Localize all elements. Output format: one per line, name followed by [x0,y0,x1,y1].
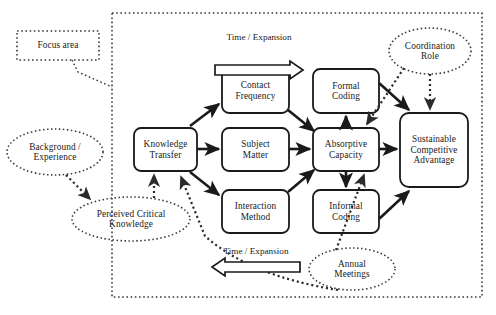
time-expansion-arrow-bottom [212,258,300,276]
ellipse-annual-meetings [309,248,395,290]
dotted-arrow-background-to-perceived-knowledge [66,175,90,199]
box-sustainable-competitive-advantage [400,113,468,187]
diagram-vector-layer [0,0,496,315]
arrow-informal-coding-to-sca [379,191,409,219]
box-absorptive-capacity [313,128,379,171]
box-knowledge-transfer [134,128,197,171]
time-expansion-label-top: Time / Expansion [209,32,309,42]
box-interaction-method [222,190,289,233]
dotted-arrow-annual-meetings-to-absorptive-capacity [336,175,364,250]
dotted-arrow-coordination-role-to-absorptive-capacity [367,68,404,124]
arrow-interaction-method-to-absorptive-capacity [288,170,314,192]
box-informal-coding [313,190,379,233]
ellipse-coordination-role [389,28,471,74]
time-expansion-label-bottom: Time / Expansion [206,246,306,256]
time-expansion-arrow-top [215,61,303,79]
arrow-kt-to-interaction-method [190,172,219,195]
arrow-kt-to-contact-frequency [190,104,219,126]
ellipse-perceived-critical-knowledge [72,197,190,241]
arrow-formal-coding-to-sca [379,83,409,110]
box-subject-matter [222,128,289,171]
box-formal-coding [313,69,379,113]
arrow-contact-frequency-to-absorptive-capacity [288,110,314,131]
diagram-canvas: Focus area Knowledge Transfer Contact Fr… [0,0,496,315]
focus-area-box [17,31,99,60]
focus-area-pointer [72,60,112,87]
ellipse-background-experience [7,129,103,175]
